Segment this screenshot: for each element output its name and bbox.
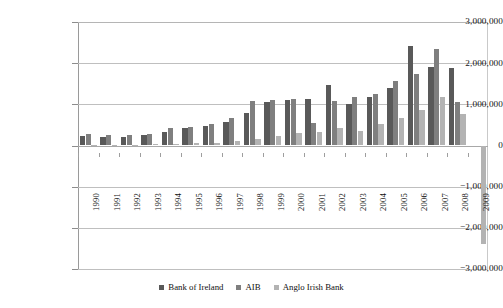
- legend-label: Bank of Ireland: [168, 282, 223, 292]
- bar: [428, 67, 433, 145]
- bar-group: [78, 22, 99, 269]
- bar-group: [263, 22, 284, 269]
- bar: [326, 85, 331, 146]
- x-axis-tick-label: 1994: [174, 193, 183, 211]
- bar-group: [324, 22, 345, 269]
- bar-group: [242, 22, 263, 269]
- bar: [147, 134, 152, 146]
- x-axis-tick-label: 1998: [256, 193, 265, 211]
- bar: [270, 100, 275, 145]
- bar: [255, 139, 260, 146]
- x-axis-tick-label: 2006: [420, 193, 429, 211]
- bar: [387, 88, 392, 146]
- bar: [209, 124, 214, 145]
- bar: [291, 99, 296, 145]
- bar-group: [427, 22, 448, 269]
- bar: [141, 135, 146, 146]
- x-axis-tick-label: 2004: [379, 193, 388, 211]
- bar-group: [140, 22, 161, 269]
- bar: [132, 145, 137, 146]
- bar: [194, 143, 199, 145]
- x-axis-tick-label: 1993: [154, 193, 163, 211]
- bar: [434, 49, 439, 145]
- bar: [440, 97, 445, 146]
- bar-group: [304, 22, 325, 269]
- x-axis-tick-mark: [386, 153, 387, 157]
- bar: [399, 118, 404, 146]
- bar: [168, 128, 173, 145]
- bar: [352, 97, 357, 146]
- x-axis-tick-mark: [447, 153, 448, 157]
- bar: [408, 46, 413, 146]
- x-axis-tick-mark: [78, 153, 79, 157]
- x-axis-tick-label: 2003: [359, 193, 368, 211]
- legend-item: Anglo Irish Bank: [274, 282, 344, 292]
- bar: [305, 99, 310, 145]
- bar: [276, 136, 281, 145]
- bar: [86, 134, 91, 146]
- legend-swatch-icon: [236, 285, 241, 290]
- x-axis-tick-mark: [181, 153, 182, 157]
- bar: [332, 101, 337, 146]
- x-axis-tick-mark: [201, 153, 202, 157]
- x-axis-tick-mark: [304, 153, 305, 157]
- bar: [367, 97, 372, 146]
- bar: [285, 100, 290, 146]
- bar: [173, 144, 178, 146]
- bar: [414, 74, 419, 145]
- bar: [455, 102, 460, 146]
- x-axis-tick-label: 2005: [400, 193, 409, 211]
- x-axis-tick-label: 1996: [215, 193, 224, 211]
- bar-chart: 3,000,0002,000,0001,000,0000−1,000,000−2…: [0, 0, 503, 308]
- bar: [182, 128, 187, 145]
- x-axis-tick-label: 1992: [133, 193, 142, 211]
- bar: [229, 118, 234, 145]
- x-axis-tick-mark: [406, 153, 407, 157]
- bar: [337, 128, 342, 145]
- bar: [378, 124, 383, 145]
- x-axis-tick-label: 2008: [461, 193, 470, 211]
- x-axis-tick-mark: [160, 153, 161, 157]
- bar: [235, 141, 240, 146]
- bar: [419, 110, 424, 145]
- bar-group: [119, 22, 140, 269]
- x-axis-tick-mark: [324, 153, 325, 157]
- x-axis-tick-mark: [263, 153, 264, 157]
- bar-group: [181, 22, 202, 269]
- bar-group: [160, 22, 181, 269]
- x-axis-tick-label: 1995: [195, 193, 204, 211]
- bar: [358, 131, 363, 145]
- bar-group: [406, 22, 427, 269]
- bar-group: [468, 22, 489, 269]
- bar: [91, 145, 96, 146]
- bar-group: [386, 22, 407, 269]
- bar: [80, 136, 85, 145]
- bar: [188, 127, 193, 145]
- bar: [346, 104, 351, 145]
- x-axis-tick-mark: [222, 153, 223, 157]
- legend-swatch-icon: [274, 285, 279, 290]
- legend-item: Bank of Ireland: [159, 282, 223, 292]
- bar: [106, 135, 111, 145]
- bar-group: [99, 22, 120, 269]
- bar: [244, 113, 249, 145]
- x-axis-tick-mark: [345, 153, 346, 157]
- legend-item: AIB: [236, 282, 260, 292]
- bar-group: [201, 22, 222, 269]
- x-axis-tick-mark: [119, 153, 120, 157]
- x-axis-tick-label: 2002: [338, 193, 347, 211]
- bar: [393, 81, 398, 146]
- x-axis-tick-mark: [242, 153, 243, 157]
- x-axis-tick-label: 2001: [318, 193, 327, 211]
- bar: [296, 133, 301, 145]
- x-axis: 1990199119921993199419951996199719981999…: [78, 157, 488, 197]
- bar: [250, 101, 255, 145]
- x-axis-tick-mark: [283, 153, 284, 157]
- bar: [153, 144, 158, 145]
- legend-label: Anglo Irish Bank: [283, 282, 344, 292]
- x-axis-tick-mark: [468, 153, 469, 157]
- bar: [127, 135, 132, 145]
- bar: [100, 137, 105, 145]
- bar-group: [283, 22, 304, 269]
- legend-swatch-icon: [159, 285, 164, 290]
